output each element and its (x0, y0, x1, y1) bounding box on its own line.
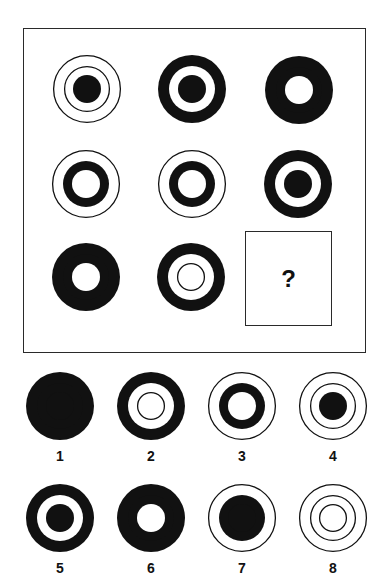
puzzle-stage: ? 12345678 (0, 0, 390, 588)
inner-zone (138, 393, 165, 420)
inner-zone (319, 392, 347, 420)
concentric-circles-icon (206, 482, 278, 554)
matrix-cell-r1c2 (156, 53, 228, 125)
concentric-circles-icon (263, 54, 335, 126)
question-mark: ? (281, 267, 296, 291)
answer-option-1[interactable] (24, 370, 96, 442)
answer-option-label[interactable]: 1 (40, 449, 80, 463)
concentric-circles-icon (115, 482, 187, 554)
matrix-cell-r2c2 (156, 148, 228, 220)
concentric-circles-icon (50, 148, 122, 220)
matrix-cell-r1c1 (51, 53, 123, 125)
inner-zone (228, 392, 256, 420)
answer-option-label[interactable]: 7 (222, 561, 262, 575)
inner-zone (72, 263, 100, 291)
matrix-cell-r3c1 (50, 241, 122, 313)
inner-zone (46, 504, 74, 532)
inner-zone (73, 75, 101, 103)
answer-option-label[interactable]: 8 (313, 561, 353, 575)
inner-zone (137, 504, 165, 532)
concentric-circles-icon (24, 482, 96, 554)
concentric-circles-icon (156, 53, 228, 125)
concentric-circles-icon (156, 148, 228, 220)
inner-zone (72, 170, 100, 198)
answer-option-label[interactable]: 5 (40, 561, 80, 575)
inner-zone (178, 264, 205, 291)
concentric-circles-icon (297, 370, 369, 442)
answer-option-6[interactable] (115, 482, 187, 554)
inner-zone (228, 504, 256, 532)
inner-zone (178, 75, 206, 103)
answer-option-2[interactable] (115, 370, 187, 442)
answer-option-5[interactable] (24, 482, 96, 554)
answer-option-label[interactable]: 3 (222, 449, 262, 463)
answer-option-3[interactable] (206, 370, 278, 442)
answer-option-8[interactable] (297, 482, 369, 554)
concentric-circles-icon (155, 241, 227, 313)
concentric-circles-icon (262, 148, 334, 220)
inner-zone (178, 170, 206, 198)
matrix-cell-r2c1 (50, 148, 122, 220)
answer-option-label[interactable]: 6 (131, 561, 171, 575)
matrix-cell-r2c3 (262, 148, 334, 220)
concentric-circles-icon (24, 370, 96, 442)
answer-option-label[interactable]: 4 (313, 449, 353, 463)
matrix-cell-r3c2 (155, 241, 227, 313)
answer-option-4[interactable] (297, 370, 369, 442)
concentric-circles-icon (297, 482, 369, 554)
concentric-circles-icon (50, 241, 122, 313)
matrix-cell-r1c3 (263, 54, 335, 126)
concentric-circles-icon (206, 370, 278, 442)
answer-option-7[interactable] (206, 482, 278, 554)
missing-cell-box: ? (245, 231, 332, 326)
inner-zone (285, 76, 313, 104)
inner-zone (284, 170, 312, 198)
inner-zone (46, 392, 74, 420)
concentric-circles-icon (51, 53, 123, 125)
inner-zone (320, 505, 347, 532)
concentric-circles-icon (115, 370, 187, 442)
answer-option-label[interactable]: 2 (131, 449, 171, 463)
